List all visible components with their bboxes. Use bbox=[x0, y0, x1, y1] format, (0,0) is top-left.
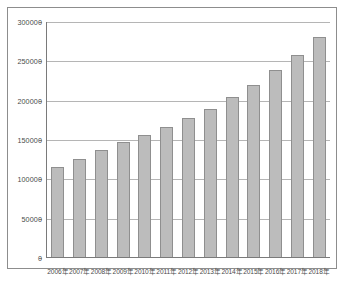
y-axis-tick-mark bbox=[39, 140, 42, 141]
x-tick-slot: 2008年 bbox=[91, 260, 113, 278]
bar[interactable] bbox=[95, 150, 108, 257]
bar[interactable] bbox=[313, 37, 326, 257]
x-axis-tick-labels: 2006年2007年2008年2009年2010年2011年2012年2013年… bbox=[47, 260, 330, 278]
bar-slot bbox=[286, 22, 308, 257]
x-tick-slot: 2010年 bbox=[134, 260, 156, 278]
bar-slot bbox=[69, 22, 91, 257]
x-axis-tick-label: 2011年 bbox=[156, 268, 177, 275]
bar[interactable] bbox=[247, 85, 260, 257]
bar-slot bbox=[308, 22, 330, 257]
x-axis-tick-label: 2017年 bbox=[287, 268, 308, 275]
chart-frame: 050000100000150000200000250000300000 200… bbox=[7, 7, 337, 269]
bar-slot bbox=[243, 22, 265, 257]
x-axis-tick-label: 2015年 bbox=[243, 268, 264, 275]
x-tick-slot: 2006年 bbox=[47, 260, 69, 278]
x-tick-slot: 2015年 bbox=[243, 260, 265, 278]
bar-chart-figure: 050000100000150000200000250000300000 200… bbox=[0, 0, 344, 285]
bar[interactable] bbox=[182, 118, 195, 257]
bar-slot bbox=[156, 22, 178, 257]
bar-slot bbox=[47, 22, 69, 257]
bar-slot bbox=[134, 22, 156, 257]
y-axis-tick-mark bbox=[39, 258, 42, 259]
bar[interactable] bbox=[226, 97, 239, 257]
x-axis-line bbox=[46, 257, 330, 258]
x-tick-slot: 2018年 bbox=[308, 260, 330, 278]
x-tick-slot: 2009年 bbox=[112, 260, 134, 278]
x-axis-tick-label: 2014年 bbox=[221, 268, 242, 275]
plot-area bbox=[46, 22, 330, 258]
x-axis-tick-label: 2007年 bbox=[69, 268, 90, 275]
y-axis-tick-mark bbox=[39, 61, 42, 62]
x-axis-tick-label: 2008年 bbox=[91, 268, 112, 275]
x-axis-tick-label: 2018年 bbox=[308, 268, 329, 275]
bar-slot bbox=[91, 22, 113, 257]
bar[interactable] bbox=[204, 109, 217, 257]
y-axis-tick-mark bbox=[39, 219, 42, 220]
x-axis-tick-label: 2009年 bbox=[113, 268, 134, 275]
bar-slot bbox=[112, 22, 134, 257]
bar[interactable] bbox=[73, 159, 86, 257]
x-tick-slot: 2017年 bbox=[286, 260, 308, 278]
bar-slot bbox=[265, 22, 287, 257]
x-tick-slot: 2013年 bbox=[199, 260, 221, 278]
x-tick-slot: 2011年 bbox=[156, 260, 178, 278]
bar[interactable] bbox=[269, 70, 282, 257]
y-axis-tick-mark bbox=[39, 101, 42, 102]
x-tick-slot: 2014年 bbox=[221, 260, 243, 278]
x-tick-slot: 2016年 bbox=[265, 260, 287, 278]
x-tick-slot: 2007年 bbox=[69, 260, 91, 278]
y-axis-tick-mark bbox=[39, 22, 42, 23]
x-axis-tick-label: 2010年 bbox=[134, 268, 155, 275]
bar[interactable] bbox=[138, 135, 151, 257]
x-axis-tick-label: 2012年 bbox=[178, 268, 199, 275]
y-axis-tick-labels: 050000100000150000200000250000300000 bbox=[8, 22, 42, 258]
bar[interactable] bbox=[117, 142, 130, 257]
x-axis-tick-label: 2016年 bbox=[265, 268, 286, 275]
bar-slot bbox=[199, 22, 221, 257]
x-axis-tick-label: 2006年 bbox=[47, 268, 68, 275]
x-tick-slot: 2012年 bbox=[178, 260, 200, 278]
bar[interactable] bbox=[291, 55, 304, 257]
bar[interactable] bbox=[51, 167, 64, 257]
bar-slot bbox=[178, 22, 200, 257]
bar[interactable] bbox=[160, 127, 173, 257]
y-axis-tick-mark bbox=[39, 179, 42, 180]
bar-slot bbox=[221, 22, 243, 257]
bar-series bbox=[47, 22, 330, 257]
x-axis-tick-label: 2013年 bbox=[200, 268, 221, 275]
